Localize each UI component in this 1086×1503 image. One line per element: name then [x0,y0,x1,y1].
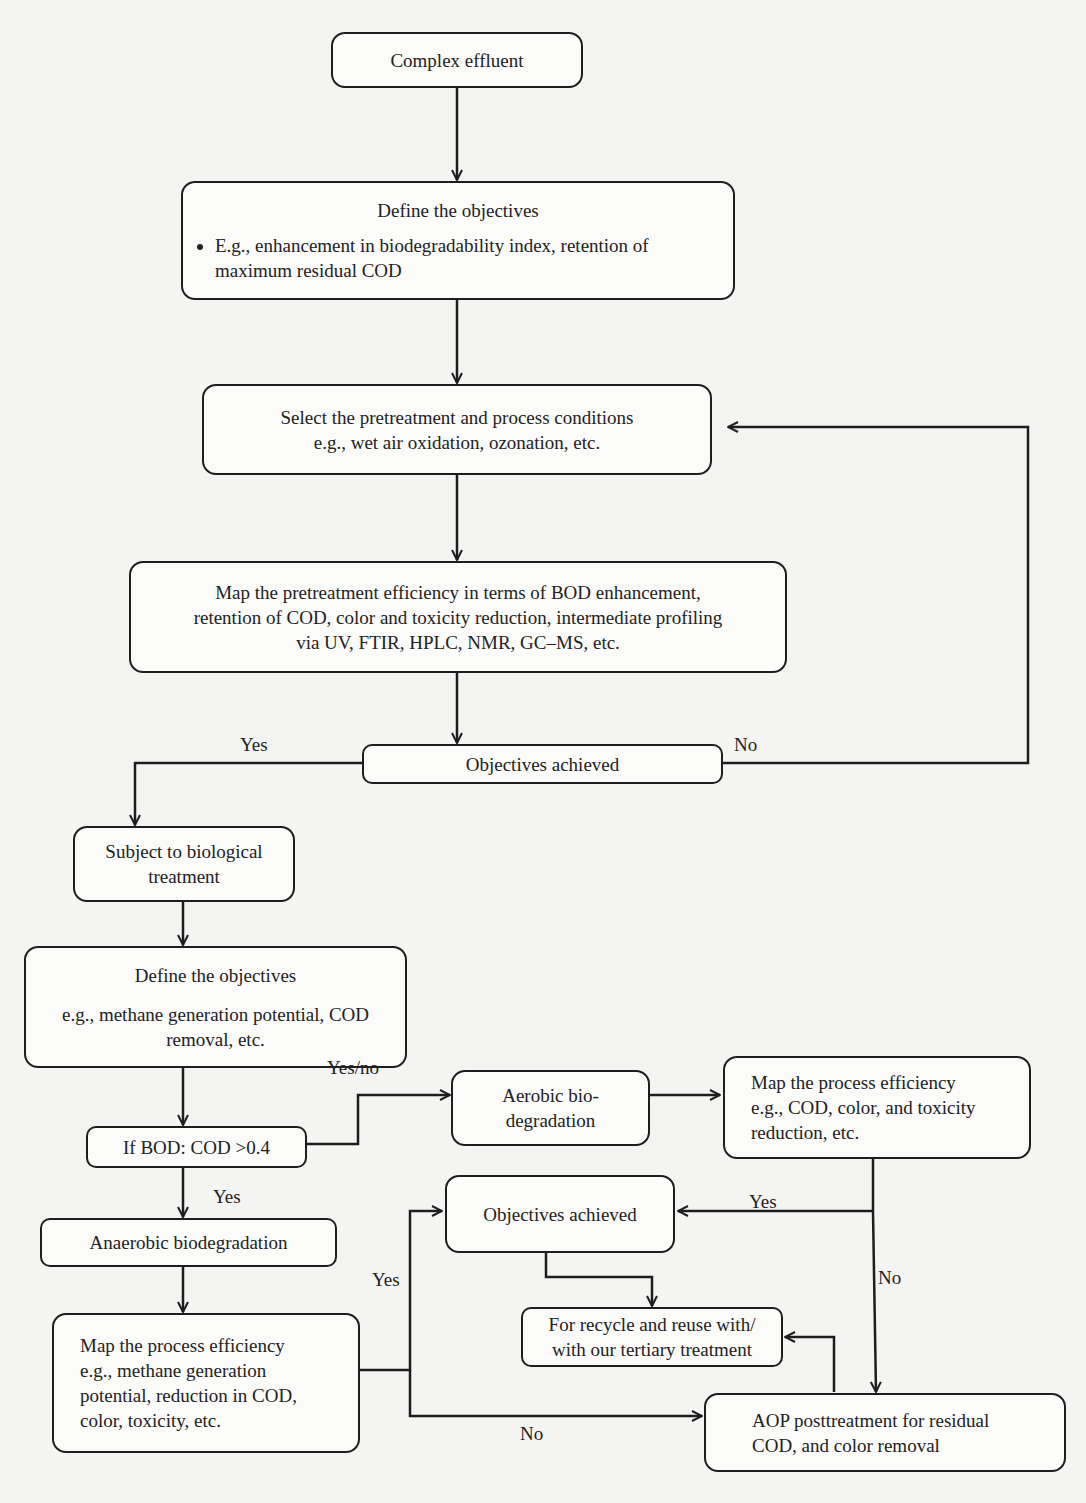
node-map-pretreatment-efficiency: Map the pretreatment efficiency in terms… [129,561,787,673]
node-objectives-achieved-2: Objectives achieved [445,1175,675,1253]
node-if-bod-cod: If BOD: COD >0.4 [86,1126,307,1168]
node-line: Map the process efficiency [80,1333,348,1358]
node-define-objectives-pretreatment: Define the objectives E.g., enhancement … [181,181,735,300]
arrow-anaerobic-no [410,1370,702,1416]
node-select-pretreatment: Select the pretreatment and process cond… [202,384,712,475]
node-line: AOP posttreatment for residual [752,1408,1054,1433]
edge-label-anaerobic-no: No [520,1423,543,1445]
node-line: degradation [463,1108,638,1133]
edge-label-bod-yesno: Yes/no [327,1057,379,1079]
node-title: Define the objectives [36,963,395,988]
arrow-obj1-yes [135,763,362,825]
node-line: via UV, FTIR, HPLC, NMR, GC–MS, etc. [141,630,775,655]
node-subject-biological: Subject to biological treatment [73,826,295,902]
node-aop-posttreatment: AOP posttreatment for residual COD, and … [704,1393,1066,1472]
node-objectives-achieved-1: Objectives achieved [362,744,723,784]
node-line: treatment [85,864,283,889]
node-line: COD, and color removal [752,1433,1054,1458]
node-map-process-anaerobic: Map the process efficiency e.g., methane… [52,1313,360,1453]
arrow-aop-to-recycle [785,1337,834,1392]
edge-label-anaerobic-yes: Yes [372,1269,400,1291]
node-line: For recycle and reuse with/ [533,1312,771,1337]
node-line: Subject to biological [85,839,283,864]
objectives-bullet-item: E.g., enhancement in biodegradability in… [215,233,723,283]
node-line: retention of COD, color and toxicity red… [141,605,775,630]
node-aerobic-biodegradation: Aerobic bio- degradation [451,1070,650,1146]
node-line: with our tertiary treatment [533,1337,771,1362]
edge-label-aerobic-yes: Yes [749,1191,777,1213]
node-text: Objectives achieved [374,752,711,777]
node-line: e.g., methane generation potential, COD [36,1002,395,1027]
node-line: Map the process efficiency [751,1070,1019,1095]
node-text: If BOD: COD >0.4 [98,1135,295,1160]
node-line: e.g., COD, color, and toxicity [751,1095,1019,1120]
node-line: e.g., wet air oxidation, ozonation, etc. [214,430,700,455]
node-line: Select the pretreatment and process cond… [214,405,700,430]
node-title: Define the objectives [193,198,723,223]
node-line: e.g., methane generation [80,1358,348,1383]
node-line: reduction, etc. [751,1120,1019,1145]
edge-label-bod-yes: Yes [213,1186,241,1208]
node-map-process-aerobic: Map the process efficiency e.g., COD, co… [723,1056,1031,1159]
node-text: Anaerobic biodegradation [52,1230,325,1255]
edge-label-obj1-no: No [734,734,757,756]
arrow-aerobic-no [873,1211,876,1392]
edge-label-aerobic-no: No [878,1267,901,1289]
node-line: removal, etc. [36,1027,395,1052]
node-text: Objectives achieved [457,1202,663,1227]
node-complex-effluent: Complex effluent [331,32,583,88]
edge-label-obj1-yes: Yes [240,734,268,756]
node-line: potential, reduction in COD, [80,1383,348,1408]
node-line: Aerobic bio- [463,1083,638,1108]
objectives-bullet-list: E.g., enhancement in biodegradability in… [193,233,723,283]
flowchart-canvas: Complex effluent Define the objectives E… [0,0,1086,1503]
node-line: Map the pretreatment efficiency in terms… [141,580,775,605]
node-text: Complex effluent [343,48,571,73]
node-anaerobic-biodegradation: Anaerobic biodegradation [40,1218,337,1267]
node-recycle-reuse: For recycle and reuse with/ with our ter… [521,1307,783,1367]
node-define-objectives-biological: Define the objectives e.g., methane gene… [24,946,407,1068]
arrow-obj2-to-recycle [546,1253,652,1306]
node-line: color, toxicity, etc. [80,1408,348,1433]
arrow-bod-to-aerobic [307,1095,450,1144]
